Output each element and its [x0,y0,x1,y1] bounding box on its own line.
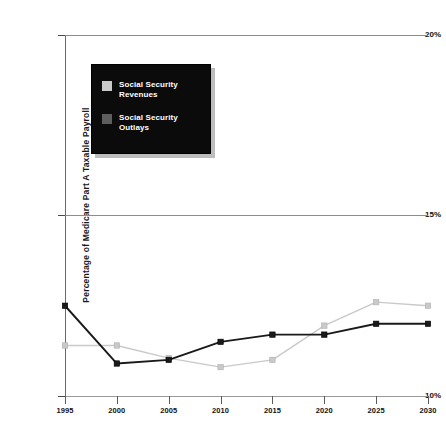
legend-swatch-revenues-icon [102,81,112,91]
data-point-marker [322,323,327,328]
y-tick-mark-10 [58,396,65,397]
y-tick-mark-15 [58,215,65,216]
x-tick-mark-2010 [221,396,222,404]
data-point-marker [270,332,275,337]
data-point-marker [114,361,119,366]
chart-legend: Social Security Revenues Social Security… [91,64,211,154]
x-tick-mark-2015 [272,396,273,404]
x-tick-mark-2020 [324,396,325,404]
data-point-marker [114,343,119,348]
data-point-marker [218,364,223,369]
data-point-marker [322,332,327,337]
x-tick-mark-1995 [65,396,66,404]
data-point-marker [62,303,67,308]
x-tick-label-2025: 2025 [356,406,396,415]
series-line-social-security-revenues [65,302,428,367]
x-tick-mark-2005 [169,396,170,404]
series-line-social-security-outlays [65,306,428,364]
x-tick-label-2005: 2005 [149,406,189,415]
data-point-marker [218,339,223,344]
legend-label-outlays: Social Security Outlays [119,113,178,133]
x-tick-label-2000: 2000 [97,406,137,415]
legend-swatch-outlays-icon [102,114,112,124]
x-tick-label-2030: 2030 [408,406,446,415]
data-point-marker [166,357,171,362]
x-tick-mark-2030 [428,396,429,404]
data-point-marker [373,299,378,304]
data-point-marker [62,343,67,348]
data-point-marker [425,303,430,308]
data-point-marker [425,321,430,326]
x-tick-mark-2000 [117,396,118,404]
data-point-marker [270,357,275,362]
x-tick-label-2010: 2010 [201,406,241,415]
gridline-10 [65,396,428,397]
x-tick-label-1995: 1995 [45,406,85,415]
legend-label-revenues: Social Security Revenues [119,80,178,100]
y-tick-mark-20 [58,35,65,36]
x-tick-label-2015: 2015 [252,406,292,415]
x-tick-mark-2025 [376,396,377,404]
legend-entry-outlays: Social Security Outlays [102,113,178,133]
x-tick-label-2020: 2020 [304,406,344,415]
legend-entry-revenues: Social Security Revenues [102,80,178,100]
data-point-marker [373,321,378,326]
